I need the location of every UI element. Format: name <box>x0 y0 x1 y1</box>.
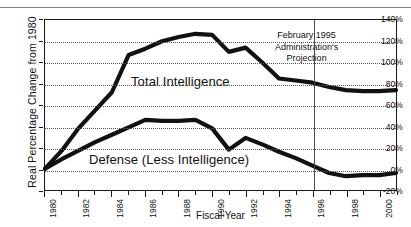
gridline-y <box>45 171 396 172</box>
chart-figure: Real Percentage Change from 1980 Total I… <box>0 0 411 227</box>
x-tick-major <box>78 191 79 197</box>
x-tick-major <box>111 191 112 197</box>
y-tick-mark <box>39 62 43 63</box>
y-tick-label: -20% <box>383 186 403 196</box>
cropped-title-remnant <box>120 0 280 6</box>
series-label-total-intelligence: Total Intelligence <box>129 74 232 89</box>
y-tick-label: 80% <box>386 79 403 89</box>
x-tick-major <box>212 191 213 197</box>
y-tick-label: 40% <box>386 122 403 132</box>
y-tick-label: 20% <box>386 143 403 153</box>
series-label-defense: Defense (Less Intelligence) <box>87 152 251 167</box>
y-tick-label: 100% <box>381 57 403 67</box>
x-tick-minor <box>128 191 129 195</box>
y-tick-mark <box>39 148 43 149</box>
x-tick-major <box>313 191 314 197</box>
gridline-y <box>45 106 396 107</box>
x-tick-minor <box>363 191 364 195</box>
annotation-line-2: Administration's <box>275 42 338 54</box>
x-tick-minor <box>94 191 95 195</box>
y-tick-label: 0% <box>391 165 403 175</box>
x-tick-minor <box>296 191 297 195</box>
y-tick-mark <box>39 84 43 85</box>
top-divider-rule <box>0 7 411 8</box>
x-tick-major <box>178 191 179 197</box>
y-tick-mark <box>39 41 43 42</box>
gridline-y <box>45 149 396 150</box>
annotation-line-1: February 1995 <box>275 30 338 42</box>
x-tick-minor <box>195 191 196 195</box>
x-tick-minor <box>330 191 331 195</box>
y-axis-ticks <box>0 19 43 191</box>
projection-divider-line <box>314 20 315 190</box>
gridline-y <box>45 63 396 64</box>
x-tick-major <box>380 191 381 197</box>
x-axis-ticks: 1980198219841986198819901992199419961998… <box>44 191 397 227</box>
x-tick-minor <box>162 191 163 195</box>
gridline-y <box>45 128 396 129</box>
x-tick-minor <box>61 191 62 195</box>
x-axis-title: Fiscal Year <box>44 210 397 221</box>
projection-annotation: February 1995 Administration's Projectio… <box>273 29 340 66</box>
x-tick-major <box>44 191 45 197</box>
y-tick-label: 60% <box>386 100 403 110</box>
x-tick-minor <box>263 191 264 195</box>
y-tick-mark <box>39 170 43 171</box>
y-tick-mark <box>39 127 43 128</box>
x-tick-major <box>145 191 146 197</box>
y-tick-label: 140% <box>381 14 403 24</box>
plot-area: Total Intelligence Defense (Less Intelli… <box>44 19 397 191</box>
y-tick-label: 120% <box>381 36 403 46</box>
x-tick-major <box>279 191 280 197</box>
x-tick-minor <box>229 191 230 195</box>
x-tick-major <box>347 191 348 197</box>
y-tick-mark <box>39 191 43 192</box>
x-tick-major <box>246 191 247 197</box>
y-tick-mark <box>39 105 43 106</box>
y-tick-mark <box>39 19 43 20</box>
gridline-y <box>45 85 396 86</box>
gridline-y <box>45 42 396 43</box>
